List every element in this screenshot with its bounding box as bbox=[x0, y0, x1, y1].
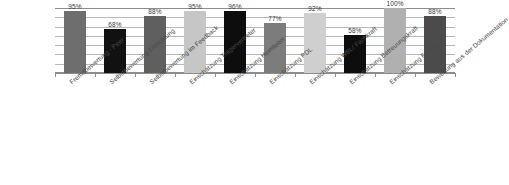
x-axis-label: Selbstbewertung im Feedback bbox=[148, 24, 219, 85]
x-axis-label: Einschätzung WBL/ Fachkraft bbox=[308, 25, 378, 85]
x-axis-label: Einschätzung PDL bbox=[268, 46, 313, 86]
x-axis-label: Bewertung aus der Dokumentation bbox=[428, 16, 509, 86]
x-axis-label: Einschätzung Trägervertreter bbox=[188, 26, 257, 85]
x-axis-label: Selbstbewertung Einrichtung bbox=[108, 27, 176, 86]
x-axis-label: Einschätzung Betreuungskraft bbox=[348, 24, 419, 85]
